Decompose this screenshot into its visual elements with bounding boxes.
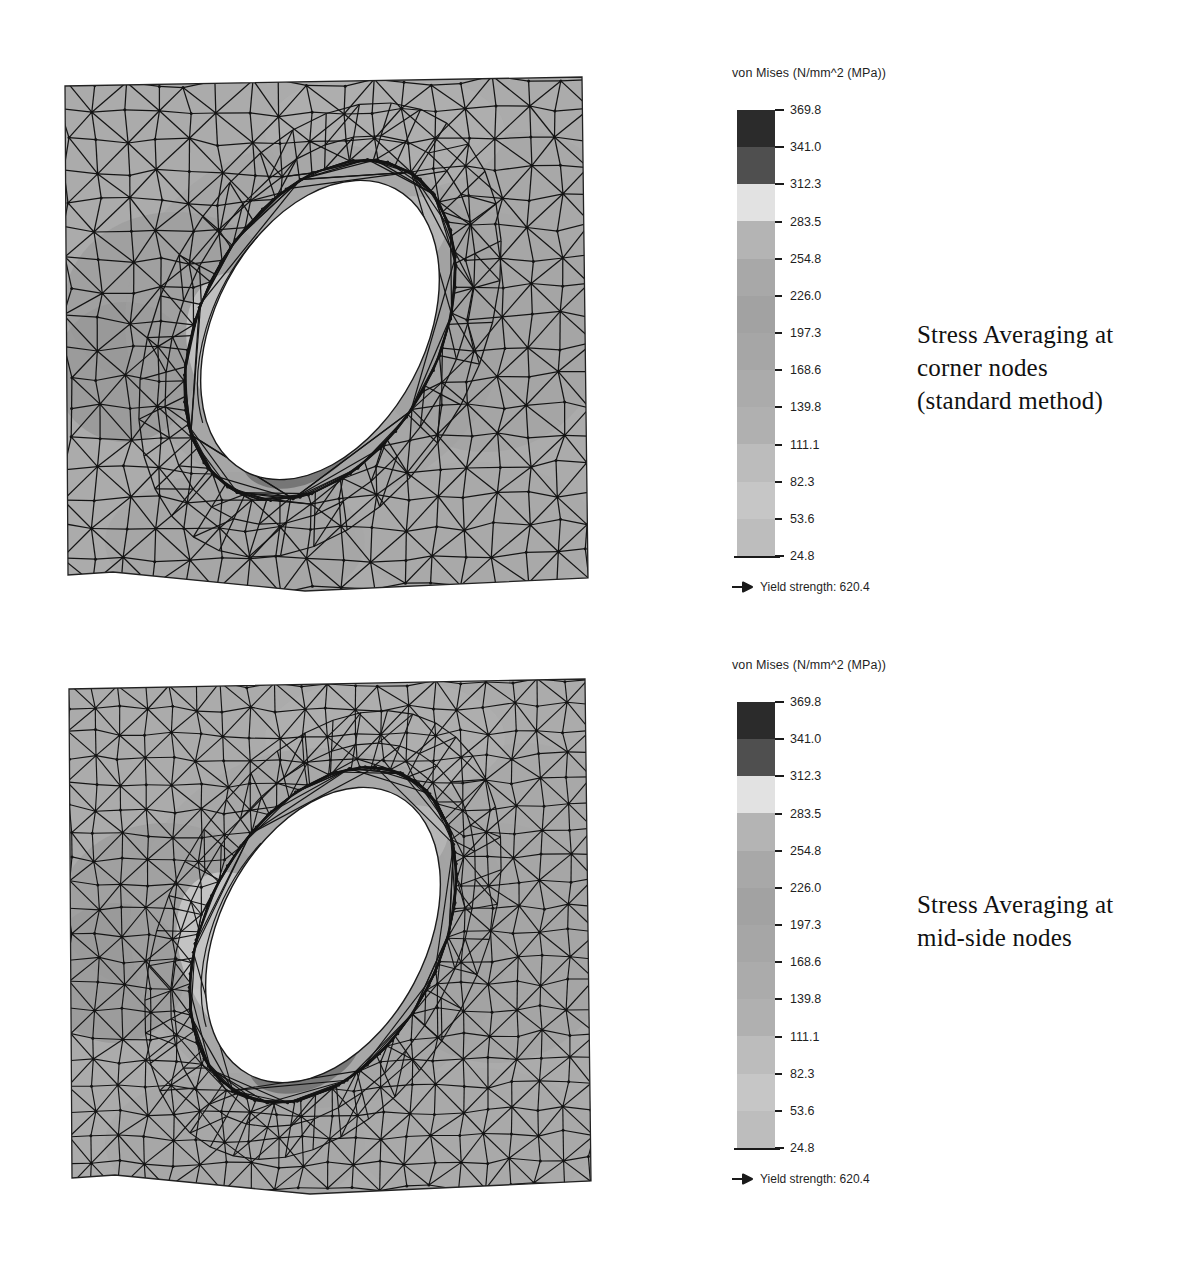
tick-mark-icon [775, 1036, 782, 1038]
colorbar-tick-label: 254.8 [790, 845, 821, 857]
legend-top: von Mises (N/mm^2 (MPa)) 369.8341.0312.3… [732, 66, 982, 560]
tick-mark-icon [775, 481, 782, 483]
tick-mark-icon [775, 444, 782, 446]
tick-mark-icon [775, 221, 782, 223]
colorbar-tick-label: 111.1 [790, 1031, 819, 1043]
tick-mark-icon [775, 258, 782, 260]
tick-mark-icon [775, 109, 784, 111]
colorbar-tick-label: 283.5 [790, 216, 821, 228]
tick-mark-icon [775, 738, 784, 740]
colorbar-tick-label: 197.3 [790, 327, 821, 339]
colorbar-tick-label: 312.3 [790, 178, 821, 190]
tick-mark-icon [775, 998, 782, 1000]
colorbar-tick-label: 369.8 [790, 696, 821, 708]
colorbar-tick-label: 139.8 [790, 401, 821, 413]
legend-title: von Mises (N/mm^2 (MPa)) [732, 658, 982, 672]
caption-top: Stress Averaging at corner nodes (standa… [917, 318, 1167, 417]
tick-mark-icon [775, 1073, 782, 1075]
fea-mesh-svg-bottom [55, 673, 595, 1203]
colorbar-tick-label: 254.8 [790, 253, 821, 265]
tick-mark-icon [775, 332, 782, 334]
yield-strength-label: Yield strength: 620.4 [760, 580, 870, 594]
tick-mark-icon [775, 183, 784, 185]
caption-line: Stress Averaging at [917, 888, 1167, 921]
tick-mark-icon [775, 701, 784, 703]
colorbar-tick-label: 53.6 [790, 513, 814, 525]
fea-stress-contour-midside-nodes [55, 673, 595, 1203]
tick-mark-icon [775, 850, 782, 852]
caption-line: Stress Averaging at [917, 318, 1167, 351]
tick-mark-icon [775, 1110, 782, 1112]
colorbar-tick-label: 53.6 [790, 1105, 814, 1117]
fea-stress-contour-corner-nodes [55, 72, 595, 602]
yield-strength-row: Yield strength: 620.4 [732, 580, 870, 594]
colorbar-tick-label: 283.5 [790, 808, 821, 820]
colorbar-baseline [734, 1148, 780, 1150]
legend-title: von Mises (N/mm^2 (MPa)) [732, 66, 982, 80]
panel-bottom: von Mises (N/mm^2 (MPa)) 369.8341.0312.3… [0, 635, 1187, 1270]
colorbar-tick-label: 168.6 [790, 956, 821, 968]
colorbar-tick-label: 24.8 [790, 550, 814, 562]
colorbar-tick-label: 82.3 [790, 476, 814, 488]
colorbar-tick-label: 341.0 [790, 733, 821, 745]
colorbar-tick-label: 341.0 [790, 141, 821, 153]
colorbar-tick-label: 312.3 [790, 770, 821, 782]
colorbar-tick-label: 226.0 [790, 882, 821, 894]
colorbar-tick-label: 226.0 [790, 290, 821, 302]
caption-bottom: Stress Averaging at mid-side nodes [917, 888, 1167, 954]
tick-mark-icon [775, 775, 784, 777]
colorbar-tick-label: 24.8 [790, 1142, 814, 1154]
colorbar-tick-label: 168.6 [790, 364, 821, 376]
tick-mark-icon [775, 295, 782, 297]
colorbar-tick-label: 82.3 [790, 1068, 814, 1080]
colorbar-tick-label: 139.8 [790, 993, 821, 1005]
fea-mesh-svg-top [55, 72, 595, 602]
caption-line: (standard method) [917, 384, 1167, 417]
colorbar-baseline [734, 556, 780, 558]
right-arrow-icon [732, 1173, 754, 1185]
yield-strength-row: Yield strength: 620.4 [732, 1172, 870, 1186]
tick-mark-icon [775, 813, 782, 815]
tick-mark-icon [775, 961, 782, 963]
yield-strength-label: Yield strength: 620.4 [760, 1172, 870, 1186]
tick-mark-icon [775, 518, 782, 520]
caption-line: mid-side nodes [917, 921, 1167, 954]
tick-mark-icon [775, 924, 782, 926]
colorbar-tick-label: 111.1 [790, 439, 819, 451]
tick-mark-icon [775, 406, 782, 408]
tick-mark-icon [775, 887, 782, 889]
right-arrow-icon [732, 581, 754, 593]
tick-mark-icon [775, 369, 782, 371]
colorbar-tick-label: 197.3 [790, 919, 821, 931]
panel-top: von Mises (N/mm^2 (MPa)) 369.8341.0312.3… [0, 0, 1187, 635]
tick-mark-icon [775, 146, 784, 148]
colorbar-tick-label: 369.8 [790, 104, 821, 116]
caption-line: corner nodes [917, 351, 1167, 384]
